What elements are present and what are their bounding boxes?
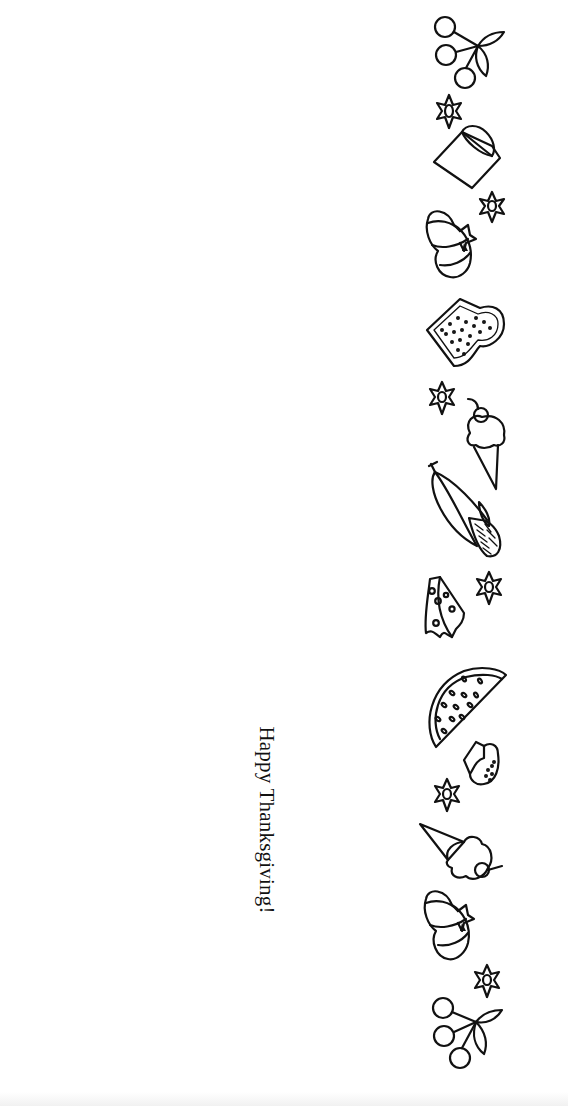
flower-icon <box>475 570 503 606</box>
cheese-icon <box>424 577 470 643</box>
cherries-icon <box>430 996 505 1072</box>
watermelon-slice-icon <box>424 665 508 749</box>
pumpkin-icon <box>424 205 484 285</box>
biscuit-icon <box>462 740 502 788</box>
card-page: Happy Thanksgiving! <box>0 0 568 1106</box>
flower-icon <box>473 963 501 999</box>
flower-icon <box>428 380 456 416</box>
pumpkin-icon <box>422 885 482 967</box>
glass-icon <box>432 120 504 192</box>
flower-icon <box>433 777 461 813</box>
ice-cream-cone-icon <box>418 820 504 884</box>
corn-icon <box>425 460 507 560</box>
page-bottom-shadow <box>0 1092 568 1106</box>
greeting-text: Happy Thanksgiving! <box>254 726 279 913</box>
toast-icon <box>424 296 506 370</box>
cherries-icon <box>432 14 507 94</box>
